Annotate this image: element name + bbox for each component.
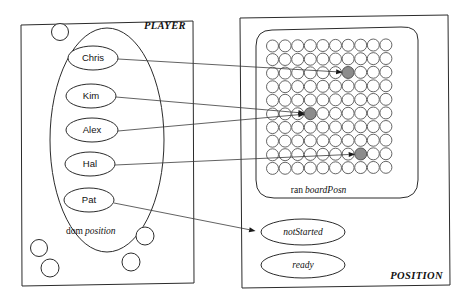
grid-cell[interactable] xyxy=(367,80,379,92)
player-member-alex[interactable]: Alex xyxy=(66,118,118,142)
grid-cell[interactable] xyxy=(267,149,279,161)
grid-cell[interactable] xyxy=(292,40,304,52)
grid-cell[interactable] xyxy=(380,80,392,92)
grid-cell[interactable] xyxy=(342,121,354,133)
grid-cell[interactable] xyxy=(380,93,392,105)
grid-cell[interactable] xyxy=(317,40,329,52)
grid-cell[interactable] xyxy=(317,162,329,174)
grid-cell[interactable] xyxy=(279,149,291,161)
grid-cell[interactable] xyxy=(304,121,316,133)
grid-cell[interactable] xyxy=(367,107,379,119)
grid-cell[interactable] xyxy=(267,67,279,79)
grid-cell[interactable] xyxy=(330,135,342,147)
grid-cell[interactable] xyxy=(267,40,279,52)
grid-cell[interactable] xyxy=(304,67,316,79)
grid-cell[interactable] xyxy=(267,135,279,147)
grid-cell[interactable] xyxy=(380,121,392,133)
grid-cell[interactable] xyxy=(355,53,367,65)
grid-cell[interactable] xyxy=(355,80,367,92)
grid-cell[interactable] xyxy=(304,148,316,160)
grid-cell[interactable] xyxy=(330,94,342,106)
player-member-hal[interactable]: Hal xyxy=(65,152,115,176)
grid-cell[interactable] xyxy=(342,134,354,146)
grid-cell[interactable] xyxy=(267,81,279,93)
grid-cell[interactable] xyxy=(367,161,379,173)
grid-cell-occupied[interactable] xyxy=(304,108,316,120)
grid-cell[interactable] xyxy=(330,107,342,119)
grid-cell[interactable] xyxy=(292,53,304,65)
grid-cell[interactable] xyxy=(292,94,304,106)
grid-cell[interactable] xyxy=(355,107,367,119)
player-member-kim[interactable]: Kim xyxy=(66,84,116,108)
position-state-ready[interactable]: ready xyxy=(261,252,345,278)
player-member-pat[interactable]: Pat xyxy=(64,188,114,212)
grid-cell[interactable] xyxy=(342,94,354,106)
grid-cell-occupied[interactable] xyxy=(342,66,354,78)
grid-cell[interactable] xyxy=(380,148,392,160)
position-state-notstarted[interactable]: notStarted xyxy=(261,219,345,245)
grid-cell[interactable] xyxy=(367,93,379,105)
grid-cell[interactable] xyxy=(267,94,279,106)
grid-cell[interactable] xyxy=(279,81,291,93)
grid-cell[interactable] xyxy=(342,107,354,119)
grid-cell[interactable] xyxy=(380,66,392,78)
grid-cell[interactable] xyxy=(330,121,342,133)
grid-cell[interactable] xyxy=(317,94,329,106)
grid-cell[interactable] xyxy=(304,135,316,147)
grid-cell[interactable] xyxy=(279,121,291,133)
grid-cell[interactable] xyxy=(355,94,367,106)
grid-cell[interactable] xyxy=(342,53,354,65)
grid-cell[interactable] xyxy=(304,40,316,52)
grid-cell[interactable] xyxy=(330,148,342,160)
grid-cell[interactable] xyxy=(304,162,316,174)
grid-cell[interactable] xyxy=(342,39,354,51)
grid-cell[interactable] xyxy=(355,121,367,133)
grid-cell[interactable] xyxy=(267,122,279,134)
grid-cell-occupied[interactable] xyxy=(355,148,367,160)
grid-cell[interactable] xyxy=(330,53,342,65)
grid-cell[interactable] xyxy=(367,148,379,160)
grid-cell[interactable] xyxy=(304,53,316,65)
grid-cell[interactable] xyxy=(380,53,392,65)
grid-cell[interactable] xyxy=(367,53,379,65)
grid-cell[interactable] xyxy=(317,80,329,92)
grid-cell[interactable] xyxy=(317,53,329,65)
grid-cell[interactable] xyxy=(355,162,367,174)
grid-cell[interactable] xyxy=(279,108,291,120)
grid-cell[interactable] xyxy=(342,162,354,174)
grid-cell[interactable] xyxy=(355,134,367,146)
grid-cell[interactable] xyxy=(279,53,291,65)
grid-cell[interactable] xyxy=(355,66,367,78)
grid-cell[interactable] xyxy=(279,162,291,174)
grid-cell[interactable] xyxy=(317,121,329,133)
grid-cell[interactable] xyxy=(317,108,329,120)
grid-cell[interactable] xyxy=(330,39,342,51)
grid-cell[interactable] xyxy=(342,80,354,92)
grid-cell[interactable] xyxy=(380,39,392,51)
grid-cell[interactable] xyxy=(367,39,379,51)
grid-cell[interactable] xyxy=(355,39,367,51)
grid-cell[interactable] xyxy=(292,81,304,93)
grid-cell[interactable] xyxy=(317,135,329,147)
grid-cell[interactable] xyxy=(304,94,316,106)
grid-cell[interactable] xyxy=(279,135,291,147)
grid-cell[interactable] xyxy=(304,80,316,92)
grid-cell[interactable] xyxy=(279,40,291,52)
player-member-chris[interactable]: Chris xyxy=(68,46,118,70)
grid-cell[interactable] xyxy=(267,54,279,66)
grid-cell[interactable] xyxy=(292,149,304,161)
grid-cell[interactable] xyxy=(317,148,329,160)
grid-cell[interactable] xyxy=(367,134,379,146)
grid-cell[interactable] xyxy=(317,67,329,79)
grid-cell[interactable] xyxy=(380,107,392,119)
grid-cell[interactable] xyxy=(367,121,379,133)
grid-cell[interactable] xyxy=(279,94,291,106)
grid-cell[interactable] xyxy=(367,66,379,78)
grid-cell[interactable] xyxy=(330,80,342,92)
grid-cell[interactable] xyxy=(330,162,342,174)
grid-cell[interactable] xyxy=(380,161,392,173)
grid-cell[interactable] xyxy=(267,162,279,174)
grid-cell[interactable] xyxy=(292,135,304,147)
grid-cell[interactable] xyxy=(292,162,304,174)
grid-cell[interactable] xyxy=(292,121,304,133)
